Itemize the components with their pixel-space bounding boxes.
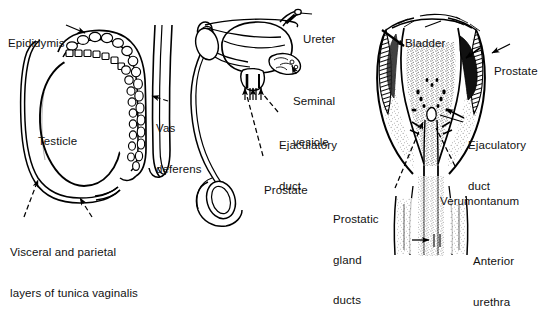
- label-verumontanum-line1: Verumontanum: [440, 195, 519, 209]
- label-prostate-mid: Prostate: [264, 157, 308, 225]
- label-vas-deferens: Vas deferens: [156, 95, 202, 203]
- label-bladder-line1: Bladder: [405, 37, 445, 51]
- label-ureter-line1: Ureter: [303, 33, 336, 47]
- label-anterior-urethra-line1: Anterior: [473, 255, 514, 269]
- leader-tunica-left: [24, 180, 38, 217]
- label-anterior-urethra-line2: urethra: [473, 296, 514, 310]
- leader-epididymis: [66, 25, 85, 33]
- label-testicle-line1: Testicle: [38, 135, 77, 149]
- label-tunica-line2: layers of tunica vaginalis: [10, 287, 138, 301]
- label-tunica-vaginalis: Visceral and parietal layers of tunica v…: [10, 219, 138, 310]
- label-verumontanum: Verumontanum: [440, 168, 519, 236]
- label-tunica-line1: Visceral and parietal: [10, 246, 138, 260]
- leader-ejaculatory-duct-mid: [262, 93, 278, 112]
- label-prostate-mid-line1: Prostate: [264, 184, 308, 198]
- label-prostate-right-line1: Prostate: [494, 65, 538, 79]
- label-epididymis: Epididymis: [8, 10, 65, 78]
- label-prostatic-gland-ducts: Prostatic gland ducts: [333, 186, 379, 310]
- label-vas-deferens-line1: Vas: [156, 122, 202, 136]
- label-anterior-urethra: Anterior urethra: [473, 228, 514, 310]
- leader-tunica-right: [80, 198, 92, 217]
- label-vas-deferens-line2: deferens: [156, 163, 202, 177]
- label-prostate-right: Prostate: [494, 38, 538, 106]
- label-ureter: Ureter: [303, 6, 336, 74]
- label-ejaculatory-duct-mid-line1: Ejaculatory: [279, 139, 337, 153]
- label-bladder: Bladder: [405, 10, 445, 78]
- label-prostatic-gland-ducts-line1: Prostatic: [333, 213, 379, 227]
- label-testicle: Testicle: [38, 108, 77, 176]
- label-prostatic-gland-ducts-line3: ducts: [333, 294, 379, 308]
- label-seminal-vesicle-line1: Seminal: [293, 95, 335, 109]
- label-ejaculatory-duct-right-line1: Ejaculatory: [468, 139, 526, 153]
- label-epididymis-line1: Epididymis: [8, 37, 65, 51]
- leader-prostate-mid: [247, 96, 263, 156]
- label-prostatic-gland-ducts-line2: gland: [333, 254, 379, 268]
